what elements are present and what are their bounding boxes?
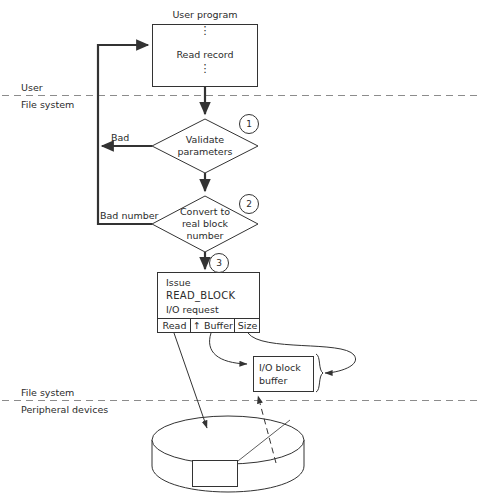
io-request-line2: READ_BLOCK: [166, 290, 235, 302]
divider-label-file-system-lower: File system: [21, 387, 74, 399]
validate-parameters-line1: Validate: [160, 134, 250, 146]
step-badge-2: 2: [239, 194, 259, 214]
edge-read-to-disk: [174, 333, 207, 428]
convert-block-line1: Convert to: [160, 206, 250, 218]
diagram-vector-layer: [0, 0, 480, 500]
io-request-field-size: Size: [235, 320, 260, 332]
buffer-size-brace: [316, 354, 323, 392]
divider-label-file-system: File system: [21, 99, 74, 111]
step-badge-1: 1: [239, 114, 259, 134]
read-record-label: Read record: [152, 49, 258, 61]
io-request-field-read: Read: [158, 320, 191, 332]
user-program-dots-top: ⋮: [152, 26, 258, 35]
io-request-line1: Issue: [166, 277, 191, 289]
disk-block: [193, 461, 238, 487]
edge-label-bad-number: Bad number: [100, 210, 158, 222]
io-request-line3: I/O request: [166, 304, 219, 316]
flow-diagram-canvas: User program ⋮ Read record ⋮ User File s…: [0, 0, 480, 500]
step-badge-1-number: 1: [240, 118, 258, 130]
edge-label-bad: Bad: [111, 132, 129, 144]
io-block-buffer-line1: I/O block: [259, 362, 301, 374]
step-badge-2-number: 2: [240, 198, 258, 210]
edge-buffer-to-iobuffer: [210, 333, 247, 364]
validate-parameters-line2: parameters: [160, 146, 250, 158]
disk-top-surface: [152, 416, 304, 464]
step-badge-3: 3: [209, 253, 229, 273]
convert-block-line2: real block: [160, 218, 250, 230]
io-request-field-buffer: ↑ Buffer: [191, 320, 235, 332]
divider-label-user: User: [21, 82, 43, 94]
user-program-caption: User program: [152, 9, 258, 21]
step-badge-3-number: 3: [210, 257, 228, 269]
io-block-buffer-line2: buffer: [259, 375, 287, 387]
divider-label-peripheral-devices: Peripheral devices: [21, 404, 108, 416]
user-program-dots-bottom: ⋮: [152, 64, 258, 73]
convert-block-line3: number: [160, 230, 250, 242]
